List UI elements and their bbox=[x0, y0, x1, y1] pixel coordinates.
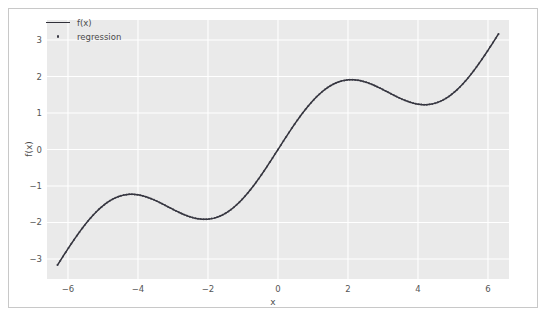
y-tick-label: −3 bbox=[9, 254, 42, 264]
legend-line-marker-icon bbox=[45, 22, 71, 24]
chart-legend[interactable]: f(x) regression bbox=[41, 15, 127, 45]
plot-axes-area bbox=[47, 20, 509, 279]
y-tick-label: 3 bbox=[9, 35, 42, 45]
y-axis-label: f(x) bbox=[24, 131, 34, 167]
x-tick-label: 2 bbox=[345, 284, 350, 294]
y-tick-label: −1 bbox=[9, 181, 42, 191]
x-tick-label: −6 bbox=[62, 284, 75, 294]
plot-svg bbox=[47, 20, 509, 279]
x-tick-label: 4 bbox=[415, 284, 420, 294]
figure-canvas: −3−2−10123 −6−4−20246 f(x) x f(x) regres… bbox=[8, 8, 538, 308]
legend-label-fx: f(x) bbox=[77, 18, 92, 28]
x-tick-label: −2 bbox=[202, 284, 215, 294]
x-tick-label: 6 bbox=[485, 284, 490, 294]
legend-item-fx[interactable]: f(x) bbox=[45, 17, 121, 28]
x-tick-label: 0 bbox=[275, 284, 280, 294]
legend-label-regression: regression bbox=[77, 32, 121, 42]
y-tick-label: 1 bbox=[9, 108, 42, 118]
y-tick-label: −2 bbox=[9, 217, 42, 227]
x-tick-label: −4 bbox=[132, 284, 145, 294]
x-axis-label: x bbox=[9, 297, 537, 307]
legend-dot-marker-icon bbox=[45, 35, 71, 38]
y-tick-label: 2 bbox=[9, 72, 42, 82]
legend-item-regression[interactable]: regression bbox=[45, 31, 121, 42]
